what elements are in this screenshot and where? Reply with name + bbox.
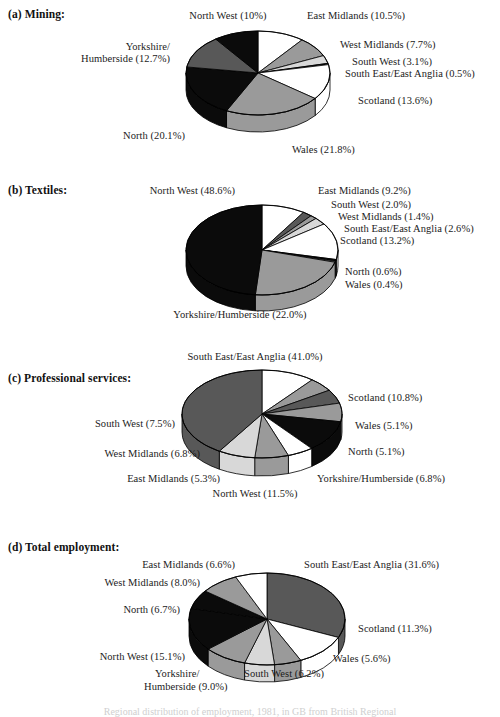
label-d-yorkshire-line1: Yorkshire/ [155,668,199,680]
label-a-scotland: Scotland (13.6%) [358,95,432,107]
panel-d-title: (d) Total employment: [8,541,119,553]
label-d-scotland: Scotland (11.3%) [358,623,432,635]
panel-b-title: (b) Textiles: [8,184,67,196]
label-d-yorkshire-line2: Humberside (9.0%) [144,681,228,693]
label-c-west-midlands: West Midlands (6.8%) [10,448,200,460]
panel-a-title: (a) Mining: [8,8,65,20]
pie-top-face-a [186,31,330,115]
pie-top-face-c [182,370,342,458]
label-d-south-east: South East/East Anglia (31.6%) [304,559,439,571]
pie-wall-segment [255,456,289,476]
panel-c-title: (c) Professional services: [8,372,131,384]
label-a-south-west: South West (3.1%) [352,56,432,68]
label-d-wales: Wales (5.6%) [333,653,390,665]
label-b-yorkshire: Yorkshire/Humberside (22.0%) [120,309,360,321]
label-b-south-west: South West (2.0%) [331,199,411,211]
label-b-north-west: North West (48.6%) [100,185,235,197]
panel-mining: (a) Mining: North West (10%) East Midlan… [0,0,500,175]
label-c-north-west: North West (11.5%) [155,488,355,500]
label-d-east-midlands: East Midlands (6.6%) [55,559,235,571]
pie-chart-textiles [183,202,341,314]
pie-top-face-b [186,205,338,295]
panel-professional-services: (c) Professional services: South East/Ea… [0,345,500,525]
label-a-north-west: North West (10%) [158,10,298,22]
label-b-west-midlands: West Midlands (1.4%) [338,211,434,223]
label-c-south-east: South East/East Anglia (41.0%) [155,351,355,363]
pie-svg-a [183,28,333,135]
pie-svg-b [183,202,341,314]
label-c-yorkshire: Yorkshire/Humberside (6.8%) [317,473,445,485]
label-d-south-west: South West (6.2%) [244,668,324,680]
pie-chart-mining [183,28,333,135]
label-b-east-midlands: East Midlands (9.2%) [318,185,411,197]
pie-top-face-d [189,573,345,665]
label-c-scotland: Scotland (10.8%) [348,392,422,404]
panel-textiles: (b) Textiles: North West (48.6%) East Mi… [0,175,500,345]
label-a-south-east: South East/East Anglia (0.5%) [345,68,475,80]
figure-caption: Regional distribution of employment, 198… [0,706,500,717]
label-a-wales: Wales (21.8%) [292,144,355,156]
pie-chart-professional-services [179,367,345,479]
panel-total-employment: (d) Total employment: East Midlands (6.6… [0,525,500,713]
label-b-wales: Wales (0.4%) [345,279,402,291]
label-d-north-west: North West (15.1%) [10,651,185,663]
label-a-east-midlands: East Midlands (10.5%) [307,10,405,22]
label-a-yorkshire-line2: Humberside (12.7%) [30,53,170,65]
label-d-west-midlands: West Midlands (8.0%) [20,577,200,589]
label-c-wales: Wales (5.1%) [355,420,412,432]
label-a-yorkshire-line1: Yorkshire/ [30,41,170,53]
label-b-south-east: South East/East Anglia (2.6%) [344,223,474,235]
label-c-south-west: South West (7.5%) [5,418,175,430]
pie-svg-c [179,367,345,479]
label-c-north: North (5.1%) [348,446,405,458]
label-b-scotland: Scotland (13.2%) [340,235,414,247]
label-a-west-midlands: West Midlands (7.7%) [340,39,436,51]
label-c-east-midlands: East Midlands (5.3%) [30,473,220,485]
label-a-north: North (20.1%) [60,130,185,142]
label-b-north: North (0.6%) [345,266,402,278]
label-d-north: North (6.7%) [20,604,180,616]
